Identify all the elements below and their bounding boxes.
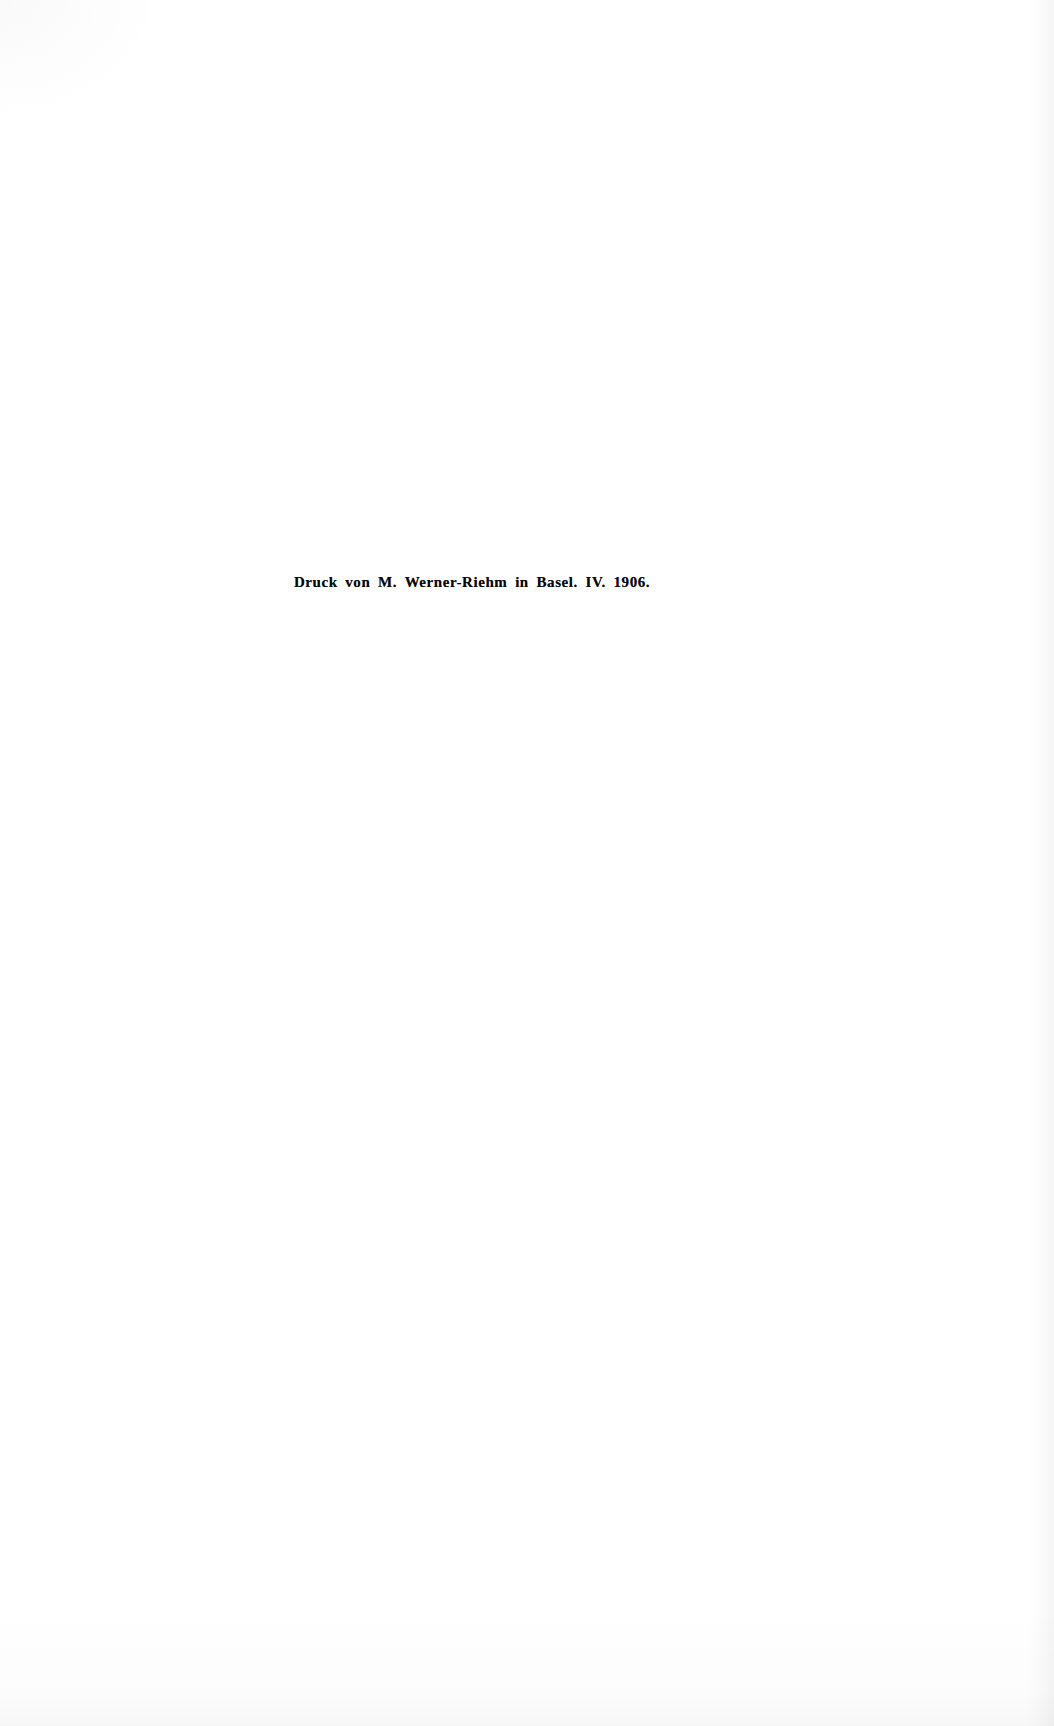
scan-tone-top-left [0,0,160,120]
colophon-block: Druck von M. Werner-Riehm in Basel. IV. … [0,572,1054,592]
colophon-line: Druck von M. Werner-Riehm in Basel. IV. … [294,572,650,592]
imprint-printer-statement: Druck von M. Werner-Riehm [294,574,507,590]
imprint-city-statement: in Basel. [515,574,578,590]
scan-tone-right-edge [1028,0,1054,1726]
imprint-space-3 [606,574,614,590]
imprint-month-roman: IV. [586,574,606,590]
imprint-space-2 [578,574,586,590]
scanned-page: Druck von M. Werner-Riehm in Basel. IV. … [0,0,1054,1726]
scan-tone-bottom-edge [0,1606,1054,1726]
imprint-year: 1906. [614,574,651,590]
